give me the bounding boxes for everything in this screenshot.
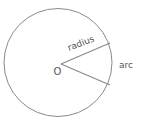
circle-diagram: O radius arc — [0, 0, 142, 121]
radius-line-lower — [61, 64, 110, 85]
circle-outline — [4, 9, 112, 117]
center-label: O — [54, 66, 62, 77]
arc-label: arc — [119, 60, 133, 70]
radius-label: radius — [66, 33, 96, 52]
